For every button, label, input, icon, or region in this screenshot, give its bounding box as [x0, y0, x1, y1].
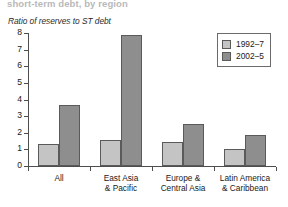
chart-legend: 1992–7 2002–5 — [217, 33, 271, 67]
chart-title: short-term debt, by region — [7, 0, 128, 9]
x-tick-mark — [276, 167, 277, 171]
bar — [100, 140, 121, 166]
x-tick-mark — [90, 167, 91, 171]
legend-label-0: 1992–7 — [236, 39, 264, 49]
chart-subtitle: Ratio of reserves to ST debt — [8, 16, 111, 26]
y-tick-mark — [24, 149, 28, 150]
y-tick-label: 3 — [6, 110, 22, 121]
y-tick-mark — [24, 66, 28, 67]
bar — [162, 142, 183, 166]
x-category-label: All — [28, 174, 90, 184]
y-tick-mark — [24, 83, 28, 84]
y-tick-label: 7 — [6, 44, 22, 55]
y-tick-mark — [24, 116, 28, 117]
y-tick-label: 2 — [6, 127, 22, 138]
x-category-label: Europe & Central Asia — [152, 174, 214, 193]
legend-swatch-2002-5-icon — [222, 52, 231, 61]
x-tick-mark — [152, 167, 153, 171]
y-tick-label: 8 — [6, 27, 22, 38]
bar — [59, 105, 80, 167]
x-tick-mark — [214, 167, 215, 171]
chart-figure: short-term debt, by region Ratio of rese… — [0, 0, 288, 207]
legend-label-1: 2002–5 — [236, 51, 264, 61]
x-category-label: East Asia & Pacific — [90, 174, 152, 193]
x-category-label: Latin America & Caribbean — [214, 174, 276, 193]
y-tick-label: 4 — [6, 94, 22, 105]
bar — [183, 124, 204, 166]
bar — [121, 35, 142, 166]
legend-swatch-1992-7-icon — [222, 40, 231, 49]
y-tick-label: 5 — [6, 77, 22, 88]
legend-item-1: 2002–5 — [222, 50, 264, 62]
bar — [224, 149, 245, 166]
y-tick-label: 0 — [6, 160, 22, 171]
y-tick-mark — [24, 100, 28, 101]
bar — [245, 135, 266, 166]
x-tick-mark — [28, 167, 29, 171]
bar — [38, 144, 59, 166]
y-tick-label: 1 — [6, 143, 22, 154]
legend-item-0: 1992–7 — [222, 38, 264, 50]
y-axis-line — [28, 33, 29, 166]
y-tick-label: 6 — [6, 60, 22, 71]
y-tick-mark — [24, 33, 28, 34]
y-tick-mark — [24, 50, 28, 51]
y-tick-mark — [24, 133, 28, 134]
